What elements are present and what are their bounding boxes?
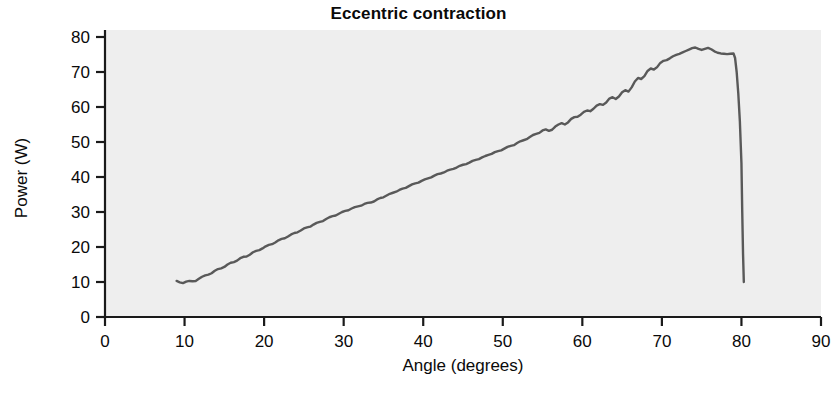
x-tick-label: 30 bbox=[334, 332, 353, 351]
y-tick-label: 60 bbox=[71, 98, 90, 117]
chart-figure: Eccentric contraction Power (W) Angle (d… bbox=[0, 0, 837, 402]
y-axis-ticks: 01020304050607080 bbox=[71, 28, 105, 327]
y-tick-label: 50 bbox=[71, 133, 90, 152]
y-tick-label: 70 bbox=[71, 63, 90, 82]
x-tick-label: 10 bbox=[175, 332, 194, 351]
x-tick-label: 20 bbox=[255, 332, 274, 351]
x-tick-label: 40 bbox=[414, 332, 433, 351]
y-tick-label: 80 bbox=[71, 28, 90, 47]
x-tick-label: 80 bbox=[732, 332, 751, 351]
x-tick-label: 90 bbox=[812, 332, 831, 351]
x-tick-label: 70 bbox=[652, 332, 671, 351]
x-tick-label: 50 bbox=[493, 332, 512, 351]
y-tick-label: 30 bbox=[71, 203, 90, 222]
y-tick-label: 40 bbox=[71, 168, 90, 187]
plot-area: 01020304050607080 0102030405060708090 bbox=[0, 0, 837, 402]
y-tick-label: 20 bbox=[71, 238, 90, 257]
y-tick-label: 10 bbox=[71, 273, 90, 292]
x-tick-label: 60 bbox=[573, 332, 592, 351]
x-axis-ticks: 0102030405060708090 bbox=[100, 317, 830, 351]
y-tick-label: 0 bbox=[81, 308, 90, 327]
x-tick-label: 0 bbox=[100, 332, 109, 351]
